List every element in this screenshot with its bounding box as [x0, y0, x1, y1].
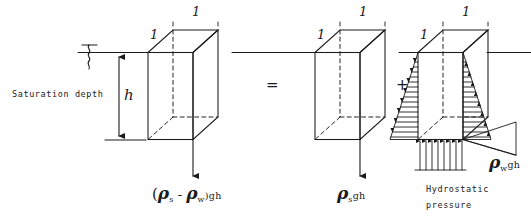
- equals-operator: =: [266, 78, 279, 93]
- rho-subscript-soil: s: [169, 195, 173, 204]
- hydrostatic-pressure-caption-line1: Hydrostatic: [426, 185, 489, 194]
- left-cube-dim-ticks: [173, 22, 218, 26]
- left-lateral-pressure-triangle: [390, 53, 418, 140]
- hydrostatic-pressure-formula: ρwgh: [489, 154, 520, 173]
- middle-cube-shape: [315, 30, 385, 140]
- water-table-symbol: [82, 45, 97, 69]
- right-cube-dim-ticks: [443, 22, 488, 26]
- rho-subscript-water: w: [198, 195, 205, 204]
- uplift-pressure-arrows: [415, 141, 466, 170]
- rho-symbol-water: ρ: [186, 183, 197, 203]
- saturation-depth-label: Saturation depth: [12, 90, 103, 99]
- left-cube-side-dim-label: 1: [150, 28, 158, 41]
- right-cube-top-dim-label: 1: [462, 5, 470, 18]
- formula-gh-suffix: gh: [209, 190, 222, 201]
- depth-dimension-label: h: [124, 88, 134, 103]
- figure-canvas: Saturation depth h 1 1 1 1 1 1 = + (ρs -…: [0, 0, 531, 216]
- rho-symbol-soil: ρ: [158, 183, 169, 203]
- formula-minus: -: [178, 187, 182, 202]
- middle-cube-dim-ticks: [340, 22, 385, 26]
- left-cube-shape: [148, 30, 218, 140]
- total-stress-formula: ρsgh: [337, 185, 366, 204]
- formula-gh-suffix: gh: [353, 190, 366, 201]
- right-cube-side-dim-label: 1: [420, 28, 428, 41]
- rho-symbol-soil: ρ: [337, 183, 348, 203]
- left-cube-top-dim-label: 1: [192, 5, 200, 18]
- effective-stress-formula: (ρs - ρw)gh: [152, 185, 222, 204]
- middle-cube-top-dim-label: 1: [359, 5, 367, 18]
- right-cube-shape: [418, 30, 488, 140]
- rho-symbol-water: ρ: [489, 152, 500, 172]
- plus-operator: +: [396, 78, 409, 93]
- middle-cube-side-dim-label: 1: [317, 28, 325, 41]
- hydrostatic-pressure-caption-line2: pressure: [426, 201, 472, 210]
- formula-gh-suffix: gh: [507, 159, 520, 170]
